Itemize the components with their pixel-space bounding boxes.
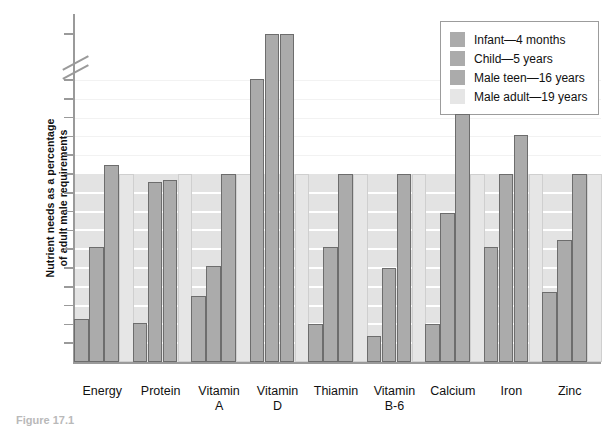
- x-axis-label-line1: Calcium: [424, 384, 482, 399]
- y-axis-tick: [64, 33, 73, 35]
- gridline: [75, 118, 601, 119]
- bar: [250, 79, 265, 362]
- bar: [295, 174, 310, 362]
- bar: [191, 296, 206, 362]
- x-axis-label-line1: Thiamin: [307, 384, 365, 399]
- x-axis-label: VitaminD: [248, 384, 306, 414]
- bar: [514, 135, 529, 362]
- y-axis-tick: [64, 342, 73, 344]
- x-axis-label-line1: Energy: [73, 384, 131, 399]
- y-axis-tick: [64, 173, 73, 175]
- legend-label-male-adult: Male adult—19 years: [474, 90, 587, 104]
- bar: [587, 174, 602, 362]
- bar: [280, 34, 295, 362]
- x-axis-label: Energy: [73, 384, 131, 399]
- bar: [397, 174, 412, 362]
- legend-swatch-male-adult: [450, 89, 465, 104]
- y-axis-title-line1: Nutrient needs as a percentage: [44, 53, 57, 343]
- bar: [499, 174, 514, 362]
- bar: [89, 247, 104, 362]
- x-axis-label: Calcium: [424, 384, 482, 399]
- bar: [163, 180, 178, 362]
- bar: [104, 165, 119, 362]
- x-axis-label: Zinc: [541, 384, 599, 399]
- bar: [206, 266, 221, 362]
- x-axis-label: VitaminB-6: [365, 384, 423, 414]
- x-axis-label-line1: Vitamin: [365, 384, 423, 399]
- bar: [557, 240, 572, 362]
- bar: [353, 174, 368, 362]
- bar: [119, 174, 134, 362]
- y-axis-tick: [64, 324, 73, 326]
- x-axis-label-line1: Vitamin: [248, 384, 306, 399]
- bar: [440, 213, 455, 362]
- bar: [133, 323, 148, 362]
- bar: [455, 114, 470, 362]
- bar: [308, 324, 323, 362]
- bar: [529, 174, 544, 362]
- bar: [338, 174, 353, 362]
- bar: [382, 268, 397, 362]
- legend-swatch-male-teen: [450, 70, 465, 85]
- legend-swatch-infant: [450, 32, 465, 47]
- bar: [367, 336, 382, 362]
- x-axis-label-line2: D: [248, 399, 306, 414]
- legend-item: Male teen—16 years: [450, 68, 587, 87]
- y-axis-tick: [64, 79, 73, 81]
- legend-label-male-teen: Male teen—16 years: [474, 71, 585, 85]
- x-axis-label-line1: Zinc: [541, 384, 599, 399]
- x-axis-label: Iron: [482, 384, 540, 399]
- bar: [572, 174, 587, 362]
- bar: [425, 324, 440, 362]
- legend: Infant—4 months Child—5 years Male teen—…: [440, 21, 599, 115]
- y-axis-title: Nutrient needs as a percentage of adult …: [44, 53, 70, 343]
- y-axis-tick: [64, 211, 73, 213]
- y-axis-tick: [64, 305, 73, 307]
- bar: [265, 34, 280, 362]
- x-axis-line: [73, 362, 601, 364]
- y-axis-tick: [64, 154, 73, 156]
- y-axis-tick: [64, 117, 73, 119]
- x-axis-label: Thiamin: [307, 384, 365, 399]
- bar: [236, 174, 251, 362]
- y-axis-tick: [64, 267, 73, 269]
- y-axis-tick: [64, 136, 73, 138]
- bar: [470, 174, 485, 362]
- y-axis-tick: [64, 286, 73, 288]
- legend-item: Male adult—19 years: [450, 87, 587, 106]
- bar: [178, 174, 193, 362]
- legend-label-infant: Infant—4 months: [474, 33, 565, 47]
- y-axis-title-line2: of adult male requirements: [57, 53, 70, 343]
- legend-swatch-child: [450, 51, 465, 66]
- bar: [412, 174, 427, 362]
- bar: [148, 182, 163, 362]
- legend-item: Child—5 years: [450, 49, 587, 68]
- x-axis-label-line1: Iron: [482, 384, 540, 399]
- bar: [484, 247, 499, 362]
- bar: [74, 319, 89, 362]
- x-axis-label-line2: A: [190, 399, 248, 414]
- bar: [323, 247, 338, 362]
- legend-label-child: Child—5 years: [474, 52, 553, 66]
- legend-item: Infant—4 months: [450, 30, 587, 49]
- x-axis-label-line1: Vitamin: [190, 384, 248, 399]
- x-axis-label-line2: B-6: [365, 399, 423, 414]
- y-axis-tick: [64, 248, 73, 250]
- x-axis-label-line1: Protein: [131, 384, 189, 399]
- bar: [542, 292, 557, 362]
- bar: [221, 174, 236, 362]
- y-axis-tick: [64, 192, 73, 194]
- x-axis-label: VitaminA: [190, 384, 248, 414]
- y-axis-tick: [64, 98, 73, 100]
- figure-caption: Figure 17.1: [16, 414, 74, 426]
- x-axis-label: Protein: [131, 384, 189, 399]
- y-axis-tick: [64, 230, 73, 232]
